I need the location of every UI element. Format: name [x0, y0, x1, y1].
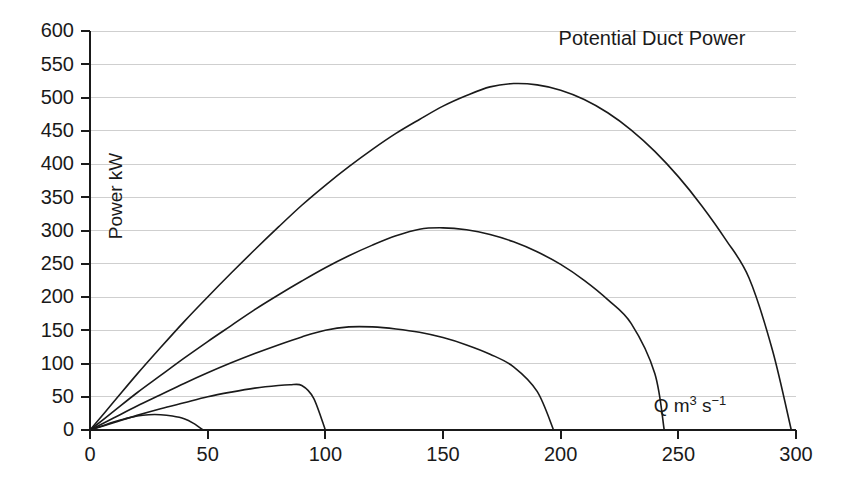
chart-figure: 050100150200250300350400450500550600 050…	[0, 0, 852, 482]
y-tick-label: 0	[63, 418, 74, 440]
y-axis-label: Power kW	[105, 153, 126, 240]
y-tick-label: 250	[41, 252, 74, 274]
y-tick-label: 300	[41, 219, 74, 241]
y-tick-label: 150	[41, 319, 74, 341]
y-tick-labels: 050100150200250300350400450500550600	[41, 19, 74, 440]
tick-marks	[81, 31, 796, 439]
x-tick-label: 200	[544, 443, 577, 465]
gridlines	[90, 31, 796, 397]
x-tick-label: 300	[779, 443, 812, 465]
chart-title: Potential Duct Power	[559, 27, 746, 49]
y-tick-label: 50	[52, 385, 74, 407]
y-tick-label: 550	[41, 53, 74, 75]
y-tick-label: 200	[41, 285, 74, 307]
plot-area: 050100150200250300350400450500550600 050…	[0, 0, 852, 482]
data-curve	[90, 228, 664, 430]
y-tick-label: 400	[41, 152, 74, 174]
y-tick-label: 100	[41, 352, 74, 374]
x-tick-labels: 050100150200250300	[84, 443, 812, 465]
y-tick-label: 450	[41, 119, 74, 141]
x-tick-label: 150	[426, 443, 459, 465]
x-tick-label: 250	[662, 443, 695, 465]
y-tick-label: 350	[41, 186, 74, 208]
x-tick-label: 100	[309, 443, 342, 465]
x-tick-label: 50	[197, 443, 219, 465]
y-tick-label: 600	[41, 19, 74, 41]
x-tick-label: 0	[84, 443, 95, 465]
y-tick-label: 500	[41, 86, 74, 108]
x-axis-label: Q m3 s−1	[654, 393, 727, 416]
data-curves	[90, 83, 791, 430]
data-curve	[90, 384, 325, 430]
